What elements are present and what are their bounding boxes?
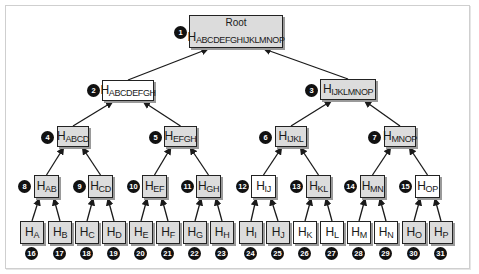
hash-label: HN <box>379 226 393 240</box>
hash-label: HABCDEFGH <box>100 84 155 98</box>
node-number-badge: 12 <box>236 180 249 193</box>
hash-symbol: H <box>165 129 173 143</box>
hash-subscript: C <box>88 230 94 240</box>
node-number-badge: 26 <box>298 247 311 260</box>
node-number-badge: 22 <box>188 247 201 260</box>
hash-node-18: HC <box>75 221 99 244</box>
hash-label: HJ <box>272 226 284 240</box>
hash-subscript: ABCDEFGHIJKLMNOP <box>196 35 285 45</box>
node-number-badge: 14 <box>344 180 357 193</box>
node-number-badge: 17 <box>53 247 66 260</box>
node-number-badge: 28 <box>352 247 365 260</box>
hash-label: HIJKL <box>279 130 304 144</box>
hash-symbol: H <box>309 179 317 193</box>
hash-symbol: H <box>256 179 264 193</box>
node-number-badge: 19 <box>107 247 120 260</box>
hash-subscript: OP <box>426 184 438 194</box>
hash-node-5: HEFGH <box>164 126 197 147</box>
hash-symbol: H <box>100 83 108 97</box>
node-number-badge: 15 <box>399 180 412 193</box>
node-number-badge: 11 <box>181 180 194 193</box>
hash-subscript: IJ <box>265 184 271 194</box>
node-number-badge: 7 <box>368 131 381 144</box>
hash-label: HABCDEFGHIJKLMNOP <box>188 31 285 45</box>
hash-symbol: H <box>215 225 223 239</box>
node-number-badge: 2 <box>87 84 100 97</box>
hash-node-6: HIJKL <box>275 126 307 147</box>
hash-label: HKL <box>309 180 328 194</box>
hash-subscript: MNOP <box>391 134 416 144</box>
hash-label: HMN <box>362 180 384 194</box>
hash-subscript: D <box>115 230 121 240</box>
node-number-badge: 27 <box>325 247 338 260</box>
node-number-badge: 31 <box>434 247 447 260</box>
hash-node-25: HJ <box>266 221 290 244</box>
hash-subscript: GH <box>206 184 219 194</box>
hash-symbol: H <box>279 129 287 143</box>
hash-label: HABCD <box>57 130 89 144</box>
hash-label: HMNOP <box>383 130 417 144</box>
hash-symbol: H <box>161 225 169 239</box>
hash-subscript: CD <box>99 184 111 194</box>
hash-subscript: B <box>61 230 67 240</box>
hash-symbol: H <box>362 179 370 193</box>
hash-node-27: HL <box>320 221 344 244</box>
hash-node-1: RootHABCDEFGHIJKLMNOP <box>189 15 283 48</box>
hash-label: HGH <box>198 180 219 194</box>
node-number-badge: 20 <box>134 247 147 260</box>
hash-subscript: M <box>360 230 367 240</box>
hash-node-2: HABCDEFGH <box>102 80 154 101</box>
hash-label: HD <box>107 226 121 240</box>
hash-label: HP <box>434 226 448 240</box>
hash-subscript: G <box>196 230 203 240</box>
hash-label: HL <box>326 226 339 240</box>
node-number-badge: 5 <box>149 131 162 144</box>
hash-subscript: H <box>223 230 229 240</box>
node-number-badge: 13 <box>290 180 303 193</box>
hash-label: HK <box>298 226 312 240</box>
node-number-badge: 6 <box>259 131 272 144</box>
hash-label: HM <box>351 226 366 240</box>
hash-subscript: KL <box>318 184 328 194</box>
hash-symbol: H <box>80 225 88 239</box>
hash-node-8: HAB <box>34 175 59 198</box>
node-number-badge: 3 <box>305 84 318 97</box>
hash-node-17: HB <box>48 221 72 244</box>
hash-subscript: AB <box>45 184 56 194</box>
hash-symbol: H <box>188 225 196 239</box>
hash-node-14: HMN <box>360 175 385 198</box>
node-number-badge: 18 <box>80 247 93 260</box>
hash-label: HIJKLMNOP <box>323 83 373 97</box>
hash-node-16: HA <box>20 221 44 244</box>
node-number-badge: 21 <box>161 247 174 260</box>
hash-node-9: HCD <box>88 175 113 198</box>
node-number-badge: 10 <box>127 180 140 193</box>
hash-subscript: E <box>142 230 148 240</box>
hash-node-11: HGH <box>196 175 221 198</box>
hash-label: HC <box>80 226 94 240</box>
hash-label: HEF <box>145 180 164 194</box>
node-number-badge: 29 <box>379 247 392 260</box>
hash-subscript: EFGH <box>173 134 196 144</box>
hash-symbol: H <box>90 179 98 193</box>
hash-symbol: H <box>379 225 387 239</box>
hash-label: HO <box>407 226 422 240</box>
hash-label: HA <box>25 226 39 240</box>
node-number-badge: 30 <box>407 247 420 260</box>
hash-symbol: H <box>272 225 280 239</box>
hash-node-15: HOP <box>415 175 440 198</box>
node-number-badge: 16 <box>25 247 38 260</box>
node-number-badge: 9 <box>73 180 86 193</box>
hash-label: HE <box>134 226 148 240</box>
hash-subscript: IJKL <box>287 134 303 144</box>
hash-subscript: I <box>254 230 256 240</box>
hash-node-31: HP <box>429 221 453 244</box>
hash-symbol: H <box>246 225 254 239</box>
hash-label: HI <box>246 226 256 240</box>
hash-label: HB <box>53 226 67 240</box>
hash-symbol: H <box>326 225 334 239</box>
hash-subscript: N <box>387 230 393 240</box>
node-number-badge: 1 <box>174 26 187 39</box>
hash-symbol: H <box>407 225 415 239</box>
hash-node-7: HMNOP <box>384 126 416 147</box>
